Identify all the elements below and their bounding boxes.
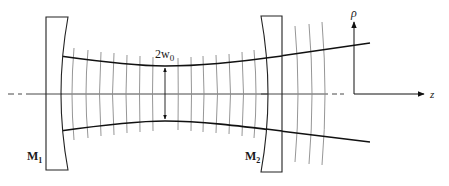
mirror-m2-label: M2 bbox=[245, 149, 260, 165]
diagram-canvas: 2w0 ρ z M1 M2 bbox=[0, 0, 449, 186]
mirror-m1 bbox=[46, 17, 68, 170]
waist-label: 2w0 bbox=[155, 47, 175, 63]
rho-axis-label: ρ bbox=[350, 6, 357, 20]
coordinate-axes: ρ z bbox=[350, 6, 435, 100]
z-axis-label: z bbox=[429, 88, 435, 100]
resonator-diagram: 2w0 ρ z M1 M2 bbox=[0, 0, 449, 186]
mirror-m1-label: M1 bbox=[27, 149, 42, 165]
wavefronts bbox=[72, 22, 325, 165]
beam-envelope bbox=[60, 43, 370, 142]
